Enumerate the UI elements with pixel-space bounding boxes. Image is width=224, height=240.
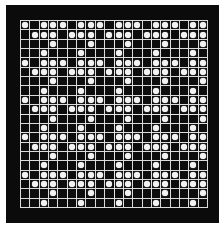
board-cell[interactable] bbox=[30, 143, 38, 151]
board-cell[interactable] bbox=[58, 180, 66, 188]
board-cell[interactable] bbox=[180, 199, 188, 207]
board-cell[interactable] bbox=[199, 49, 207, 57]
board-cell[interactable] bbox=[124, 161, 132, 169]
board-cell[interactable] bbox=[21, 133, 29, 141]
board-cell[interactable] bbox=[180, 40, 188, 48]
board-cell[interactable] bbox=[115, 189, 123, 197]
board-cell[interactable] bbox=[21, 180, 29, 188]
board-cell[interactable] bbox=[161, 21, 169, 29]
board-cell[interactable] bbox=[180, 86, 188, 94]
board-cell[interactable] bbox=[143, 115, 151, 123]
board-cell[interactable] bbox=[189, 199, 197, 207]
board-cell[interactable] bbox=[21, 124, 29, 132]
board-cell[interactable] bbox=[143, 133, 151, 141]
board-cell[interactable] bbox=[96, 68, 104, 76]
board-cell[interactable] bbox=[77, 68, 85, 76]
board-cell[interactable] bbox=[152, 105, 160, 113]
board-cell[interactable] bbox=[86, 152, 94, 160]
board-cell[interactable] bbox=[21, 189, 29, 197]
board-cell[interactable] bbox=[115, 96, 123, 104]
board-cell[interactable] bbox=[115, 49, 123, 57]
board-cell[interactable] bbox=[96, 105, 104, 113]
board-cell[interactable] bbox=[86, 77, 94, 85]
board-cell[interactable] bbox=[115, 171, 123, 179]
board-cell[interactable] bbox=[115, 105, 123, 113]
board-cell[interactable] bbox=[21, 161, 29, 169]
board-cell[interactable] bbox=[68, 189, 76, 197]
board-cell[interactable] bbox=[105, 77, 113, 85]
board-cell[interactable] bbox=[49, 77, 57, 85]
board-cell[interactable] bbox=[105, 49, 113, 57]
board-cell[interactable] bbox=[133, 49, 141, 57]
board-cell[interactable] bbox=[96, 96, 104, 104]
board-cell[interactable] bbox=[77, 58, 85, 66]
board-cell[interactable] bbox=[199, 40, 207, 48]
board-cell[interactable] bbox=[143, 180, 151, 188]
board-cell[interactable] bbox=[143, 58, 151, 66]
board-cell[interactable] bbox=[199, 115, 207, 123]
board-cell[interactable] bbox=[161, 124, 169, 132]
board-cell[interactable] bbox=[30, 68, 38, 76]
board-cell[interactable] bbox=[68, 49, 76, 57]
board-cell[interactable] bbox=[189, 133, 197, 141]
board-cell[interactable] bbox=[124, 96, 132, 104]
board-cell[interactable] bbox=[49, 152, 57, 160]
board-cell[interactable] bbox=[49, 143, 57, 151]
board-cell[interactable] bbox=[68, 152, 76, 160]
board-cell[interactable] bbox=[152, 58, 160, 66]
board-cell[interactable] bbox=[124, 171, 132, 179]
board-cell[interactable] bbox=[68, 40, 76, 48]
board-cell[interactable] bbox=[171, 152, 179, 160]
board-cell[interactable] bbox=[58, 30, 66, 38]
board-cell[interactable] bbox=[152, 115, 160, 123]
board-cell[interactable] bbox=[40, 143, 48, 151]
board-cell[interactable] bbox=[96, 49, 104, 57]
board-cell[interactable] bbox=[171, 124, 179, 132]
board-cell[interactable] bbox=[133, 143, 141, 151]
board-cell[interactable] bbox=[161, 96, 169, 104]
board-cell[interactable] bbox=[152, 30, 160, 38]
board-cell[interactable] bbox=[199, 58, 207, 66]
board-cell[interactable] bbox=[199, 124, 207, 132]
board-cell[interactable] bbox=[21, 86, 29, 94]
board-cell[interactable] bbox=[30, 40, 38, 48]
board-cell[interactable] bbox=[21, 21, 29, 29]
board-cell[interactable] bbox=[21, 96, 29, 104]
board-cell[interactable] bbox=[68, 105, 76, 113]
board-cell[interactable] bbox=[86, 49, 94, 57]
board-cell[interactable] bbox=[77, 86, 85, 94]
board-cell[interactable] bbox=[21, 58, 29, 66]
board-cell[interactable] bbox=[152, 143, 160, 151]
board-cell[interactable] bbox=[49, 58, 57, 66]
board-cell[interactable] bbox=[143, 68, 151, 76]
board-cell[interactable] bbox=[86, 133, 94, 141]
board-cell[interactable] bbox=[199, 161, 207, 169]
board-cell[interactable] bbox=[58, 21, 66, 29]
board-cell[interactable] bbox=[40, 161, 48, 169]
board-cell[interactable] bbox=[30, 133, 38, 141]
board-cell[interactable] bbox=[105, 115, 113, 123]
board-cell[interactable] bbox=[30, 21, 38, 29]
board-cell[interactable] bbox=[189, 77, 197, 85]
board-cell[interactable] bbox=[171, 143, 179, 151]
board-cell[interactable] bbox=[171, 68, 179, 76]
board-cell[interactable] bbox=[30, 180, 38, 188]
board-cell[interactable] bbox=[30, 152, 38, 160]
board-cell[interactable] bbox=[152, 21, 160, 29]
board-cell[interactable] bbox=[133, 68, 141, 76]
board-cell[interactable] bbox=[180, 96, 188, 104]
board-cell[interactable] bbox=[161, 68, 169, 76]
board-cell[interactable] bbox=[96, 77, 104, 85]
board-cell[interactable] bbox=[124, 115, 132, 123]
board-cell[interactable] bbox=[21, 105, 29, 113]
board-cell[interactable] bbox=[77, 49, 85, 57]
board-cell[interactable] bbox=[77, 161, 85, 169]
board-cell[interactable] bbox=[49, 68, 57, 76]
board-cell[interactable] bbox=[143, 30, 151, 38]
board-cell[interactable] bbox=[115, 21, 123, 29]
board-cell[interactable] bbox=[77, 21, 85, 29]
board-cell[interactable] bbox=[115, 68, 123, 76]
board-cell[interactable] bbox=[180, 68, 188, 76]
board-cell[interactable] bbox=[161, 199, 169, 207]
board-cell[interactable] bbox=[58, 171, 66, 179]
